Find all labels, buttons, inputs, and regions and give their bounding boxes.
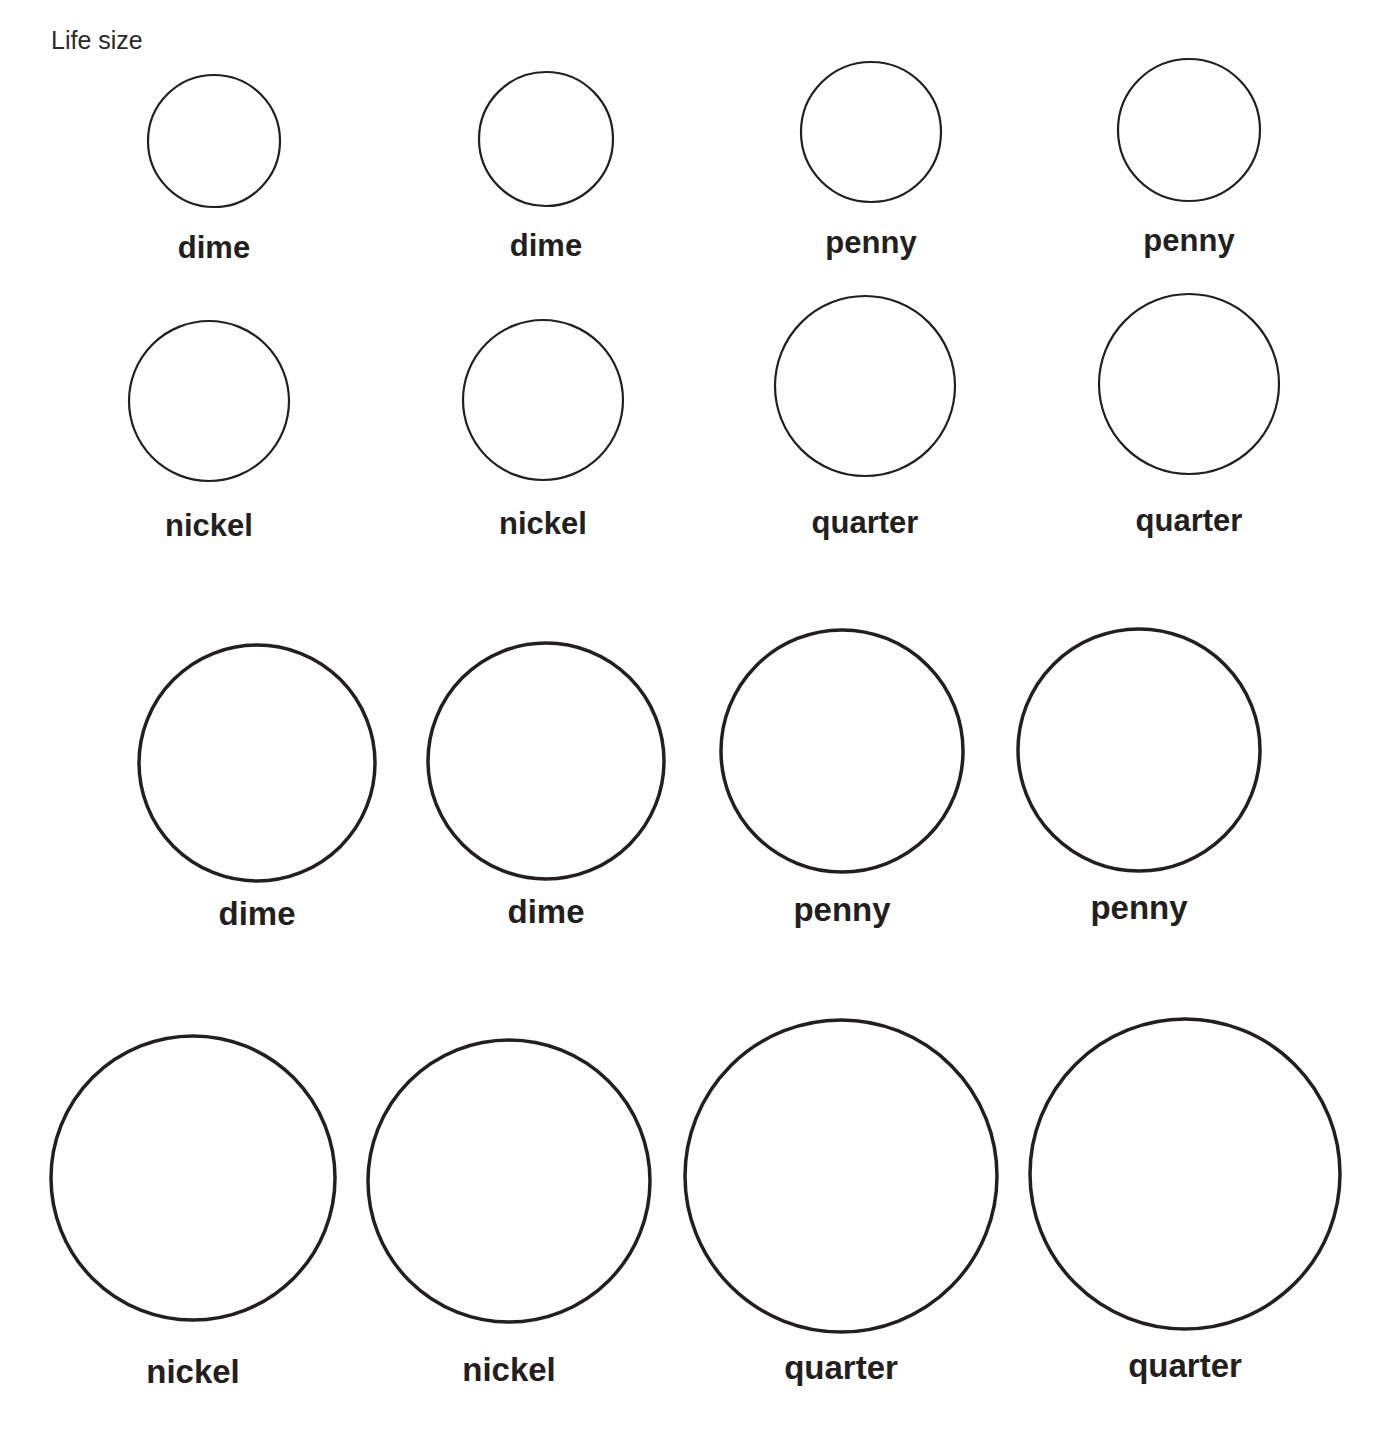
nickel-label: nickel <box>462 1351 556 1389</box>
dime-outline-circle <box>428 643 664 879</box>
nickel-outline-circle <box>368 1040 650 1322</box>
nickel-outline-circle <box>463 320 623 480</box>
dime-label: dime <box>178 230 250 266</box>
penny-label: penny <box>793 891 890 929</box>
dime-outline-circle <box>479 72 613 206</box>
dime-outline-circle <box>148 75 280 207</box>
nickel-label: nickel <box>165 508 253 544</box>
dime-label: dime <box>218 895 295 933</box>
nickel-outline-circle <box>129 321 289 481</box>
quarter-label: quarter <box>812 505 919 541</box>
penny-label: penny <box>1143 223 1234 259</box>
dime-outline-circle <box>139 645 375 881</box>
quarter-outline-circle <box>1099 294 1279 474</box>
penny-label: penny <box>825 225 916 261</box>
penny-outline-circle <box>1118 59 1260 201</box>
quarter-outline-circle <box>775 296 955 476</box>
penny-outline-circle <box>1018 629 1260 871</box>
nickel-outline-circle <box>51 1036 335 1320</box>
penny-outline-circle <box>721 630 963 872</box>
quarter-outline-circle <box>1030 1019 1340 1329</box>
dime-label: dime <box>507 893 584 931</box>
quarter-label: quarter <box>784 1349 898 1387</box>
quarter-label: quarter <box>1136 503 1243 539</box>
dime-label: dime <box>510 228 582 264</box>
penny-label: penny <box>1090 889 1187 927</box>
quarter-label: quarter <box>1128 1347 1242 1385</box>
nickel-label: nickel <box>499 506 587 542</box>
nickel-label: nickel <box>146 1353 240 1391</box>
penny-outline-circle <box>801 62 941 202</box>
quarter-outline-circle <box>685 1020 997 1332</box>
coin-outlines <box>0 0 1389 1439</box>
